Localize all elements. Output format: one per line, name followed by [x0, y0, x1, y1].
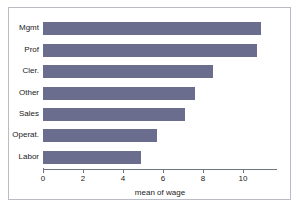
x-tick-label: 0: [41, 174, 45, 183]
x-tick: [243, 169, 244, 173]
x-tick: [163, 169, 164, 173]
category-label: Cler.: [23, 64, 39, 78]
bar-sales: [43, 108, 185, 121]
bar-other: [43, 87, 195, 100]
x-axis-title: mean of wage: [43, 188, 277, 197]
bar-row: Prof: [43, 44, 257, 57]
bar-mgmt: [43, 22, 261, 35]
bar-row: Cler.: [43, 65, 213, 78]
category-label: Other: [19, 86, 39, 100]
category-label: Sales: [19, 107, 39, 121]
bar-prof: [43, 44, 257, 57]
bar-cler: [43, 65, 213, 78]
bar-row: Mgmt: [43, 22, 261, 35]
bar-row: Other: [43, 87, 195, 100]
bar-row: Operat.: [43, 129, 157, 142]
category-label: Prof: [24, 43, 39, 57]
x-tick-label: 6: [161, 174, 165, 183]
bar-chart-figure: MgmtProfCler.OtherSalesOperat.Labor 0246…: [0, 0, 299, 207]
x-tick-label: 10: [239, 174, 248, 183]
x-tick-label: 8: [201, 174, 205, 183]
x-tick: [123, 169, 124, 173]
x-tick-label: 2: [81, 174, 85, 183]
x-tick: [83, 169, 84, 173]
bar-row: Sales: [43, 108, 185, 121]
x-tick: [203, 169, 204, 173]
category-label: Mgmt: [19, 21, 39, 35]
category-label: Labor: [19, 150, 39, 164]
x-axis-line: [43, 169, 277, 170]
bar-row: Labor: [43, 151, 141, 164]
x-tick-label: 4: [121, 174, 125, 183]
bar-labor: [43, 151, 141, 164]
bar-operat: [43, 129, 157, 142]
x-tick: [43, 169, 44, 173]
category-label: Operat.: [12, 128, 39, 142]
